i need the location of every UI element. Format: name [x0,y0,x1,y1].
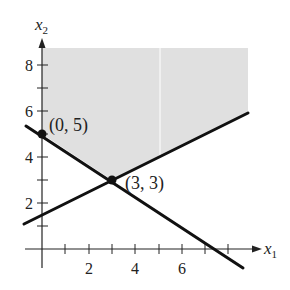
x-tick-label-2: 2 [85,260,93,277]
chart: 2 4 6 2 4 6 8 x1 x2 (0, 5) (3, 3) [0,0,290,290]
feasible-region [42,48,248,180]
point-label-3-3: (3, 3) [125,173,164,194]
y-tick-label-2: 2 [25,195,33,212]
x-tick-label-6: 6 [178,260,186,277]
y-tick-label-8: 8 [25,57,33,74]
x-tick-label-4: 4 [131,260,139,277]
y-tick-label-6: 6 [25,103,33,120]
y-axis-label: x2 [34,15,48,36]
x-axis-label: x1 [263,239,277,260]
y-tick-label-4: 4 [25,149,33,166]
vertex-point-3-3 [108,176,117,185]
point-label-0-5: (0, 5) [49,115,88,136]
x-axis [25,244,262,254]
vertex-point-0-5 [38,130,47,139]
